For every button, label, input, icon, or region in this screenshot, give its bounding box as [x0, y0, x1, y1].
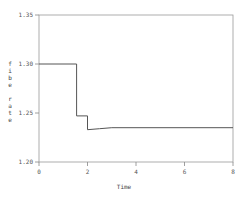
svg-text:e: e	[8, 81, 12, 88]
y-tick-label: 1.30	[19, 60, 34, 67]
x-tick-label: 0	[37, 168, 41, 175]
plot-frame	[39, 15, 233, 162]
x-tick-label: 4	[134, 168, 138, 175]
y-tick-label: 1.25	[19, 109, 34, 116]
y-axis: 1.35 1.30 1.25 1.20	[19, 11, 39, 165]
data-series-line	[39, 64, 233, 130]
step-line-chart: 1.35 1.30 1.25 1.20 0 2 4 6 8 Time f i b…	[0, 0, 245, 199]
y-axis-label: f i b e r a t e	[8, 60, 12, 123]
svg-text:t: t	[8, 109, 12, 116]
svg-text:i: i	[8, 67, 12, 74]
x-tick-label: 6	[183, 168, 187, 175]
svg-text:e: e	[8, 116, 12, 123]
x-axis: 0 2 4 6 8	[37, 162, 235, 175]
svg-text:f: f	[8, 60, 12, 67]
svg-text:a: a	[8, 102, 12, 109]
y-tick-label: 1.20	[19, 158, 34, 165]
svg-text:b: b	[8, 74, 12, 81]
x-tick-label: 8	[231, 168, 235, 175]
svg-text:r: r	[8, 95, 12, 102]
x-tick-label: 2	[86, 168, 90, 175]
y-tick-label: 1.35	[19, 11, 34, 18]
x-axis-label: Time	[117, 183, 132, 190]
